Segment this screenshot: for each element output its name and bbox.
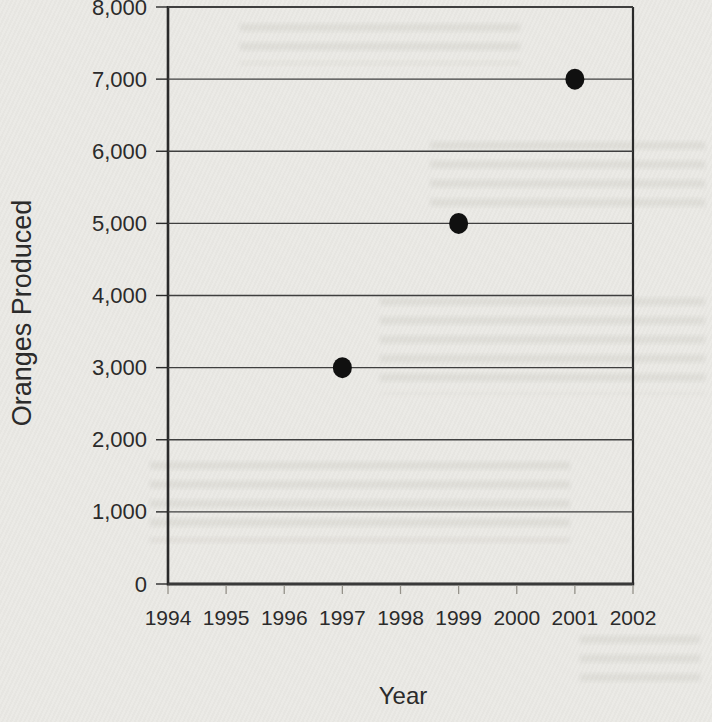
scatter-chart-canvas: 2002200120001999199819971996199519948,00…: [0, 0, 712, 722]
x-tick-label: 1996: [261, 606, 308, 629]
x-tick-label: 2002: [610, 606, 657, 629]
x-tick-label: 1998: [377, 606, 424, 629]
y-tick-label: 2,000: [92, 427, 147, 452]
x-tick-label: 2001: [552, 606, 599, 629]
x-tick-label: 1995: [203, 606, 250, 629]
data-point: [449, 213, 468, 234]
data-point: [565, 69, 584, 90]
y-tick-label: 4,000: [92, 283, 147, 308]
y-tick-label: 1,000: [92, 499, 147, 524]
y-tick-label: 0: [135, 572, 147, 597]
y-tick-label: 8,000: [92, 0, 147, 20]
x-tick-label: 1997: [319, 606, 366, 629]
x-tick-label: 1999: [435, 606, 482, 629]
data-point: [333, 357, 352, 378]
scanned-chart-page: 2002200120001999199819971996199519948,00…: [0, 0, 712, 722]
y-tick-label: 5,000: [92, 211, 147, 236]
y-axis-title: Oranges Produced: [7, 200, 37, 427]
x-axis-title: Year: [379, 682, 428, 709]
y-tick-label: 6,000: [92, 139, 147, 164]
y-tick-label: 3,000: [92, 355, 147, 380]
x-tick-label: 1994: [145, 606, 192, 629]
x-tick-label: 2000: [493, 606, 540, 629]
y-tick-label: 7,000: [92, 67, 147, 92]
